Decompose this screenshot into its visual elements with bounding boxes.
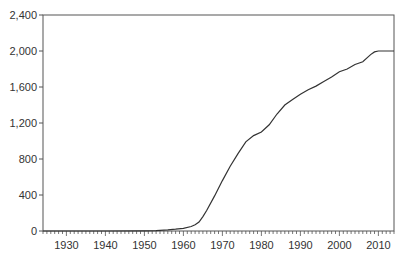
y-tick-label: 0 bbox=[31, 225, 37, 237]
plot-border bbox=[43, 15, 394, 231]
plot-frame bbox=[43, 15, 394, 231]
x-tick-label: 2000 bbox=[327, 239, 351, 251]
y-tick-label: 400 bbox=[19, 189, 37, 201]
x-tick-label: 1960 bbox=[171, 239, 195, 251]
y-tick-label: 1,600 bbox=[9, 81, 37, 93]
x-tick-label: 1980 bbox=[249, 239, 273, 251]
y-axis: 04008001,2001,6002,0002,400 bbox=[9, 9, 43, 237]
x-axis: 193019401950196019701980199020002010 bbox=[43, 231, 394, 251]
line-chart: 04008001,2001,6002,0002,400 193019401950… bbox=[0, 0, 405, 260]
x-tick-label: 1990 bbox=[288, 239, 312, 251]
y-tick-label: 800 bbox=[19, 153, 37, 165]
x-tick-label: 1940 bbox=[93, 239, 117, 251]
data-line bbox=[43, 51, 394, 231]
x-tick-label: 1930 bbox=[54, 239, 78, 251]
y-tick-label: 2,000 bbox=[9, 45, 37, 57]
x-tick-label: 2010 bbox=[366, 239, 390, 251]
y-tick-label: 1,200 bbox=[9, 117, 37, 129]
y-tick-label: 2,400 bbox=[9, 9, 37, 21]
x-tick-label: 1950 bbox=[132, 239, 156, 251]
x-tick-label: 1970 bbox=[210, 239, 234, 251]
